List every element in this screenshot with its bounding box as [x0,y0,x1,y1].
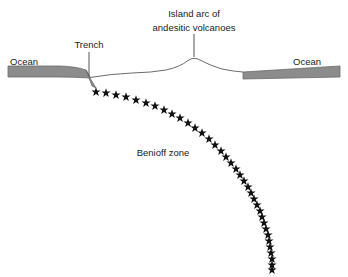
left-oceanic-plate [8,66,90,78]
benioff-star-marker [210,140,219,149]
benioff-star-marker [150,101,159,110]
benioff-star-marker [111,90,120,99]
benioff-star-marker [204,134,213,143]
trench-label: Trench [74,39,103,50]
island-arc-label-line2: andesitic volcanoes [153,22,236,33]
ocean-right-label: Ocean [293,56,321,67]
benioff-star-marker [131,95,140,104]
benioff-star-marker [255,206,264,215]
benioff-star-marker [101,88,110,97]
benioff-star-marker [183,118,192,127]
benioff-star-marker [159,105,168,114]
benioff-star-marker [121,92,130,101]
benioff-star-marker [235,170,244,179]
right-oceanic-plate [243,66,340,79]
benioff-star-marker [197,128,206,137]
ocean-left-label: Ocean [10,56,38,67]
leader-lines-group [89,34,194,76]
diagram-canvas: Ocean Ocean Trench Island arc of andesit… [0,0,348,277]
benioff-star-marker [167,109,176,118]
island-arc-topography [90,58,243,77]
benioff-zone-star-group [91,87,276,274]
subducting-slab [86,70,96,88]
crust-layer-group [8,66,340,88]
island-arc-label-line1: Island arc of [168,8,220,19]
benioff-star-marker [216,146,225,155]
benioff-star-marker [267,265,276,274]
benioff-star-marker [91,87,100,96]
benioff-star-marker [239,176,248,185]
benioff-star-marker [141,98,150,107]
subduction-zone-diagram: Ocean Ocean Trench Island arc of andesit… [0,0,348,277]
benioff-star-marker [175,113,184,122]
benioff-zone-label: Benioff zone [137,147,190,158]
labels-group: Ocean Ocean Trench Island arc of andesit… [10,8,321,158]
arc-surface-profile [90,58,243,77]
benioff-star-marker [190,123,199,132]
